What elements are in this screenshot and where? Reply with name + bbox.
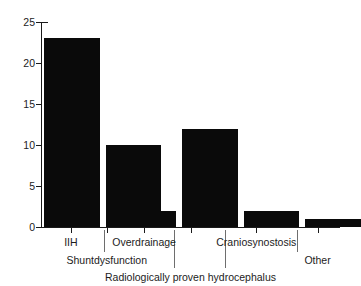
y-tick-15 [36, 104, 41, 105]
y-tick-label-10: 10 [23, 140, 35, 151]
x-label-tier2-0: Shuntdysfunction [66, 254, 147, 266]
x-label-tier1-1: Overdrainage [112, 236, 176, 248]
x-tick-4 [256, 228, 257, 233]
x-label-tier3-0: Radiologically proven hydrocephalus [105, 271, 276, 283]
y-tick-label-5: 5 [29, 181, 35, 192]
y-tick-label-15: 15 [23, 99, 35, 110]
y-tick-25 [36, 22, 41, 23]
y-axis-top-cap [41, 22, 48, 23]
x-label-tier2-1: Other [304, 254, 330, 266]
x-group-separator-0 [104, 230, 105, 252]
x-group-separator-3 [297, 230, 298, 252]
x-tick-5 [318, 228, 319, 233]
y-tick-label-20: 20 [23, 58, 35, 69]
y-axis-tick-labels: 2520151050 [5, 22, 35, 227]
y-tick-label-25: 25 [23, 17, 35, 28]
x-tick-0 [71, 228, 72, 233]
bar-2 [121, 211, 177, 227]
bar-4 [244, 211, 300, 227]
y-tick-10 [36, 145, 41, 146]
x-label-tier1-0: IIH [64, 236, 77, 248]
y-tick-20 [36, 63, 41, 64]
y-axis-line [41, 22, 42, 227]
x-tick-3 [191, 228, 192, 233]
bar-0 [44, 38, 100, 227]
bar-5 [305, 219, 361, 227]
y-tick-5 [36, 186, 41, 187]
bar-3 [182, 129, 238, 227]
x-label-tier1-2: Craniosynostosis [216, 236, 296, 248]
x-tick-2 [144, 228, 145, 233]
x-tick-1 [107, 228, 108, 233]
y-tick-0 [36, 227, 41, 228]
plot-area: 2520151050 [41, 22, 340, 227]
y-tick-label-0: 0 [29, 222, 35, 233]
